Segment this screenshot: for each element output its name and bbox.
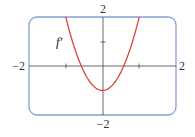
derivative-plot: −2 2 2 −2 f′ xyxy=(0,0,195,137)
x-min-label: −2 xyxy=(12,59,25,73)
x-max-label: 2 xyxy=(179,59,185,73)
derivative-curve xyxy=(66,17,140,91)
y-min-label: −2 xyxy=(97,117,110,131)
curve-label: f′ xyxy=(56,34,63,49)
y-max-label: 2 xyxy=(100,2,106,16)
